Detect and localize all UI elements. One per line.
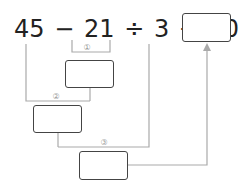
step-label-3: ③ (100, 138, 107, 147)
answer-box[interactable] (182, 13, 231, 42)
bracket-1 (72, 40, 110, 52)
arrow-line (128, 50, 207, 165)
step-label-2: ② (52, 92, 59, 101)
step-2-box[interactable] (33, 105, 82, 133)
step-label-1: ① (83, 43, 90, 52)
step-1-box[interactable] (65, 60, 114, 88)
arrow-head-icon (203, 43, 211, 51)
step-3-box[interactable] (79, 151, 128, 180)
